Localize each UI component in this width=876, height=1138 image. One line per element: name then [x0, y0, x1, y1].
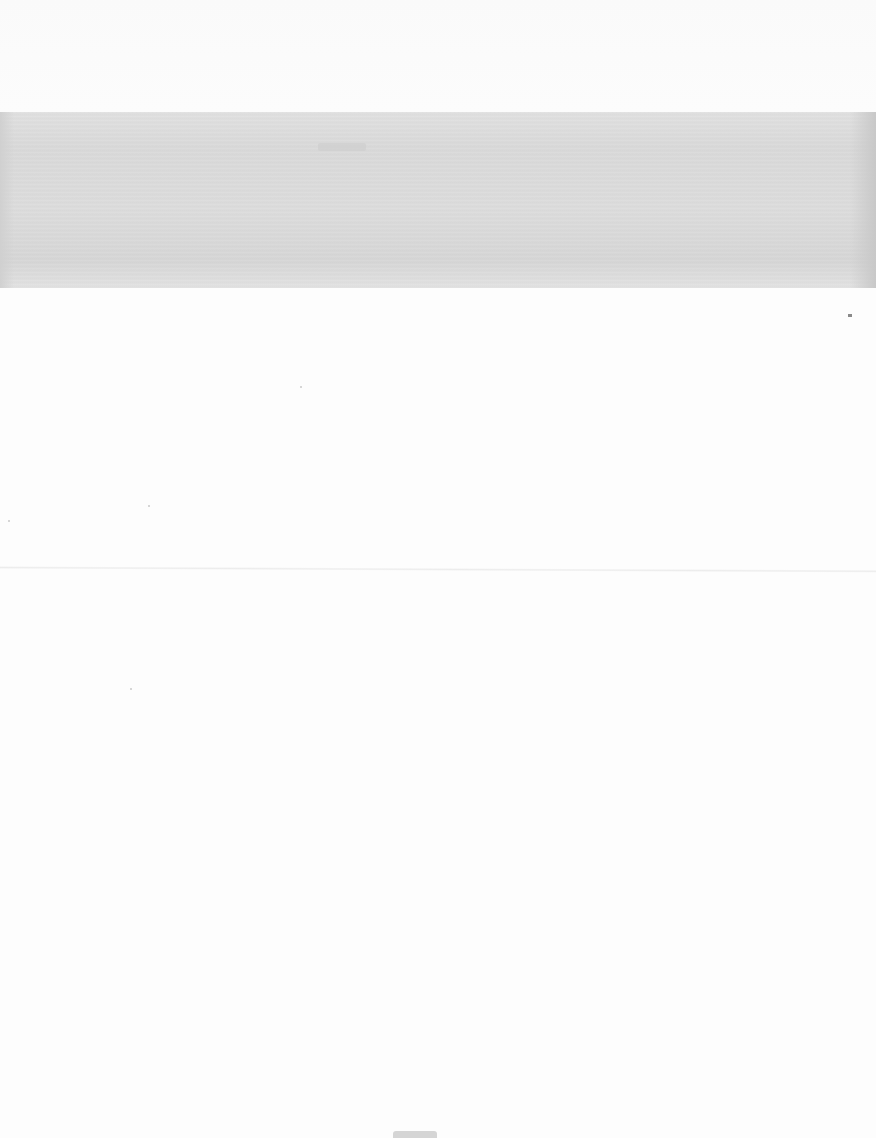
band-right-shadow [850, 112, 876, 288]
dust-speck [300, 386, 302, 388]
scan-speck [848, 314, 852, 317]
dust-speck [130, 688, 132, 690]
band-left-shadow [0, 112, 14, 288]
fold-line [0, 566, 876, 573]
top-margin [0, 0, 876, 112]
dust-speck [148, 505, 150, 507]
gray-header-band [0, 112, 876, 288]
dust-speck [8, 520, 10, 522]
bottom-scan-mark [393, 1131, 437, 1138]
illegible-band-text [318, 143, 366, 151]
